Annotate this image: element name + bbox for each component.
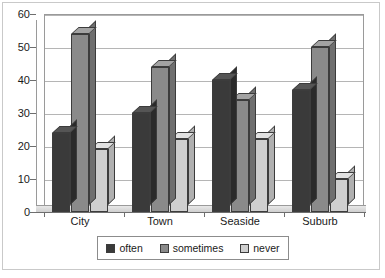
bar-chart: 0102030405060 CityTownSeasideSuburb ofte…	[0, 0, 385, 278]
legend-item-sometimes: sometimes	[160, 243, 224, 254]
legend-label: often	[119, 243, 142, 254]
x-axis-label-seaside: Seaside	[200, 216, 280, 227]
bar-town-often	[132, 106, 150, 212]
y-axis-tick-label: 50	[4, 42, 30, 53]
bar-front-face	[292, 90, 310, 212]
bar-side-face	[150, 99, 157, 205]
bar-suburb-often	[292, 83, 310, 212]
bar-side-face	[169, 53, 176, 205]
y-axis-tick-mark	[30, 212, 36, 213]
legend-label: sometimes	[173, 243, 224, 254]
legend-item-never: never	[240, 243, 279, 254]
y-axis-tick-label: 30	[4, 108, 30, 119]
x-axis-tick	[44, 212, 45, 217]
y-axis-tick-label: 10	[4, 174, 30, 185]
x-axis-label-city: City	[40, 216, 120, 227]
y-axis-tick-mark	[30, 80, 36, 81]
x-axis-label-suburb: Suburb	[280, 216, 360, 227]
x-axis-label-town: Town	[120, 216, 200, 227]
bar-side-face	[249, 86, 256, 205]
y-axis-tick-mark	[30, 146, 36, 147]
y-axis-depth-rail	[36, 20, 44, 212]
bar-front-face	[132, 113, 150, 212]
bar-side-face	[310, 76, 317, 205]
y-axis-tick-label: 60	[4, 9, 30, 20]
y-axis-tick-mark	[30, 14, 36, 15]
legend-swatch-never	[240, 244, 249, 253]
bars-layer	[44, 14, 364, 212]
x-axis-tick	[364, 212, 365, 217]
chart-legend: oftensometimesnever	[97, 236, 289, 260]
bar-seaside-often	[212, 73, 230, 212]
bar-front-face	[52, 133, 70, 212]
bar-side-face	[89, 20, 96, 205]
x-axis-baseline	[36, 212, 366, 213]
bar-front-face	[212, 80, 230, 212]
y-axis: 0102030405060	[0, 0, 30, 278]
y-axis-tick-mark	[30, 179, 36, 180]
legend-item-often: often	[106, 243, 142, 254]
legend-label: never	[253, 243, 279, 254]
y-axis-tick-mark	[30, 113, 36, 114]
y-axis-tick-mark	[30, 47, 36, 48]
x-axis-tick	[204, 212, 205, 217]
bar-side-face	[230, 66, 237, 205]
y-axis-tick-label: 0	[4, 207, 30, 218]
x-axis-tick	[284, 212, 285, 217]
x-axis-tick	[124, 212, 125, 217]
y-axis-tick-label: 20	[4, 141, 30, 152]
bar-city-often	[52, 126, 70, 212]
legend-swatch-often	[106, 244, 115, 253]
y-axis-tick-label: 40	[4, 75, 30, 86]
bar-side-face	[329, 33, 336, 205]
legend-swatch-sometimes	[160, 244, 169, 253]
